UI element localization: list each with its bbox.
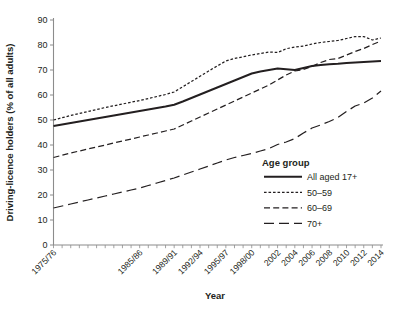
x-tick-label: 2002 [262, 247, 283, 268]
x-tick-label: 2004 [279, 247, 300, 268]
x-tick-label: 2006 [296, 247, 317, 268]
series-line-2 [54, 41, 382, 158]
x-tick-label: 1975/76 [29, 247, 58, 276]
x-tick-label: 1992/94 [176, 247, 205, 276]
legend-title: Age group [262, 157, 310, 168]
x-tick-label: 2014 [365, 247, 386, 268]
x-tick-label: 1995/97 [202, 247, 231, 276]
y-tick-label: 50 [37, 115, 47, 125]
axis-lines-group [54, 18, 384, 245]
legend-label-0: All aged 17+ [307, 172, 357, 182]
x-tick-label: 1998/00 [228, 247, 257, 276]
y-tick-label: 30 [37, 165, 47, 175]
y-tick-label: 90 [37, 15, 47, 25]
x-tick-label: 2010 [331, 247, 352, 268]
y-tick-label: 20 [37, 190, 47, 200]
y-tick-label: 80 [37, 40, 47, 50]
y-tick-label: 70 [37, 65, 47, 75]
x-tick-label: 1989/91 [150, 247, 179, 276]
series-line-1 [54, 37, 382, 121]
y-tick-label: 0 [42, 240, 47, 250]
y-axis-label-group: Driving-licence holders (% of all adults… [4, 44, 15, 222]
line-chart: Driving-licence holders (% of all adults… [0, 0, 402, 315]
x-axis-label-group: Year [205, 290, 225, 301]
legend-label-1: 50–59 [307, 188, 332, 198]
chart-container: Driving-licence holders (% of all adults… [0, 0, 402, 315]
y-axis-title: Driving-licence holders (% of all adults… [4, 44, 15, 222]
x-axis-ticks-group: 1975/761985/861989/911992/941995/971998/… [29, 245, 386, 276]
y-tick-label: 10 [37, 215, 47, 225]
x-tick-label: 1985/86 [116, 247, 145, 276]
x-tick-label: 2008 [314, 247, 335, 268]
x-axis-title: Year [205, 290, 225, 301]
y-tick-label: 40 [37, 140, 47, 150]
series-line-0 [54, 61, 382, 126]
legend-group: Age groupAll aged 17+50–5960–6970+ [262, 157, 357, 229]
y-tick-label: 60 [37, 90, 47, 100]
y-axis-ticks-group: 0102030405060708090 [37, 15, 53, 250]
legend-label-3: 70+ [307, 219, 322, 229]
data-series-group [54, 37, 382, 209]
x-tick-label: 2012 [348, 247, 369, 268]
legend-label-2: 60–69 [307, 203, 332, 213]
